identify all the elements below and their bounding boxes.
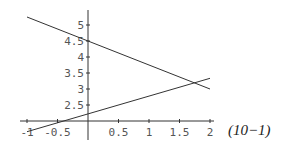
y-tick-label: 2.5 [64,99,84,112]
x-tick-label: -0.5 [44,126,71,139]
x-tick-label: 0.5 [109,126,129,139]
y-tick-label: 3 [77,83,84,96]
y-tick-label: 3.5 [64,67,84,80]
x-tick-label: -1 [20,126,33,139]
y-tick-label: 4.5 [64,35,84,48]
x-tick-label: 2 [207,126,214,139]
y-tick-label: 4 [77,51,84,64]
equation-number: (10−1) [228,122,271,139]
x-tick-label: 1.5 [170,126,190,139]
series-line-increasing [27,78,210,131]
series-line-decreasing [27,17,210,89]
y-tick-label: 5 [77,19,84,32]
x-tick-label: 1 [146,126,153,139]
